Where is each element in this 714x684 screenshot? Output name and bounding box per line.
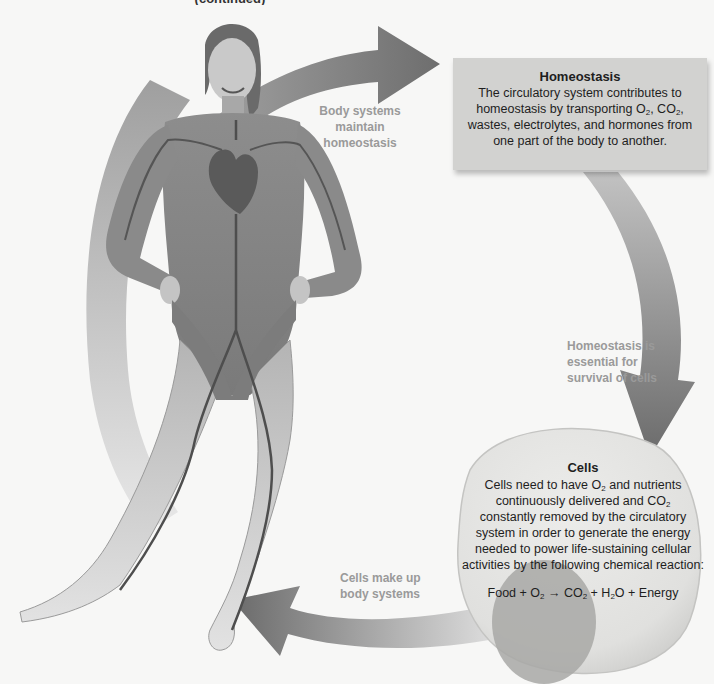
arrow-homeostasis-to-cells xyxy=(583,172,695,457)
label-line: Cells make up xyxy=(340,570,440,586)
label-line: Body systems xyxy=(300,103,420,119)
text-line: constantly removed by the circulatory xyxy=(458,509,708,525)
cells-title: Cells xyxy=(458,460,708,476)
chemical-equation: Food + O2 → CO2 + H2O + Energy xyxy=(458,585,708,601)
text-span: → CO xyxy=(544,586,582,600)
homeostasis-box: Homeostasis The circulatory system contr… xyxy=(453,58,707,170)
label-homeostasis-essential: Homeostasis is essential for survival of… xyxy=(567,338,667,386)
text-line: homeostasis by transporting O2, CO2, xyxy=(461,101,699,117)
text-line: Cells need to have O2 and nutrients xyxy=(458,477,708,493)
label-line: essential for xyxy=(567,354,667,370)
text-span: , xyxy=(680,102,683,116)
text-line: The circulatory system contributes to xyxy=(461,85,699,101)
text-span: continuously delivered and CO xyxy=(496,494,666,508)
text-span: + H xyxy=(587,586,610,600)
label-line: maintain homeostasis xyxy=(300,119,420,151)
text-span: Cells need to have O xyxy=(485,478,602,492)
homeostasis-description: The circulatory system contributes to ho… xyxy=(453,85,707,149)
text-span: and nutrients xyxy=(606,478,682,492)
text-line: continuously delivered and CO2 xyxy=(458,493,708,509)
label-line: body systems xyxy=(340,586,440,602)
text-span: O + Energy xyxy=(615,586,679,600)
cells-description: Cells Cells need to have O2 and nutrient… xyxy=(458,460,708,601)
text-line: needed to power life-sustaining cellular xyxy=(458,541,708,557)
label-line: survival of cells xyxy=(567,370,667,386)
text-span: homeostasis by transporting O xyxy=(476,102,646,116)
label-body-systems-maintain-homeostasis: Body systems maintain homeostasis xyxy=(300,103,420,151)
label-line: Homeostasis is xyxy=(567,338,667,354)
label-cells-make-up-body-systems: Cells make up body systems xyxy=(340,570,440,602)
text-line: wastes, electrolytes, and hormones from xyxy=(461,117,699,133)
homeostasis-title: Homeostasis xyxy=(453,69,707,85)
text-span: Food + O xyxy=(488,586,540,600)
text-line: activities by the following chemical rea… xyxy=(452,557,714,573)
text-span: , CO xyxy=(650,102,676,116)
text-line: one part of the body to another. xyxy=(461,133,699,149)
text-line: system in order to generate the energy xyxy=(458,525,708,541)
subscript: 2 xyxy=(666,500,670,509)
